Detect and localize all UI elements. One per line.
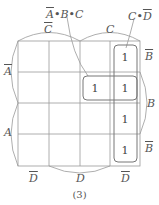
cell-r3-c3: 1 xyxy=(110,145,140,156)
cell-r0-c3: 1 xyxy=(110,52,140,63)
label-c: C xyxy=(106,24,114,35)
label-a: A xyxy=(4,127,12,138)
label-b: B xyxy=(147,98,155,109)
figure-caption: (3) xyxy=(0,189,159,200)
cell-r2-c3: 1 xyxy=(110,114,140,125)
label-b-bar-2: B xyxy=(145,143,153,154)
label-d-bar-2: D xyxy=(121,173,130,184)
label-d: D xyxy=(76,173,85,184)
label-d-bar-1: D xyxy=(29,173,38,184)
annotation-term-abar-b-c: A•B•C xyxy=(46,9,83,20)
label-a-bar: A xyxy=(4,66,12,77)
cell-r1-c2: 1 xyxy=(80,83,110,94)
label-b-bar-1: B xyxy=(145,51,153,62)
annotation-term-c-dbar: C•D xyxy=(128,11,152,22)
cell-r1-c3: 1 xyxy=(110,83,140,94)
label-c-bar: C xyxy=(44,24,52,35)
